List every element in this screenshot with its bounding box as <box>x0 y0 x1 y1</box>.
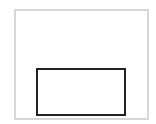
inner-box <box>36 68 126 116</box>
